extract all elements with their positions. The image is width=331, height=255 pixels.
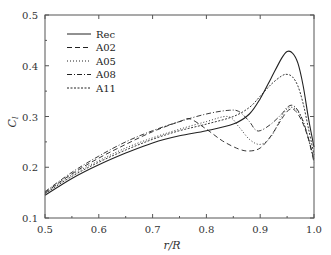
legend: RecA02A05A08A11 bbox=[67, 29, 116, 94]
legend-label-a02: A02 bbox=[95, 42, 116, 53]
legend-label-rec: Rec bbox=[96, 29, 115, 40]
y-axis-label: Cl bbox=[6, 116, 20, 127]
y-tick-label: 0.4 bbox=[22, 61, 38, 72]
x-tick-label: 1.0 bbox=[306, 224, 322, 235]
line-chart: 0.50.60.70.80.91.00.10.20.30.40.5 r/R Cl… bbox=[0, 0, 331, 255]
series-a08-line bbox=[45, 105, 314, 191]
y-tick-label: 0.2 bbox=[22, 162, 38, 173]
x-tick-label: 0.8 bbox=[198, 224, 214, 235]
y-tick-label: 0.1 bbox=[22, 213, 38, 224]
x-tick-label: 0.6 bbox=[91, 224, 107, 235]
legend-label-a05: A05 bbox=[95, 56, 116, 67]
series-a05-line bbox=[45, 107, 314, 192]
legend-label-a08: A08 bbox=[95, 69, 116, 80]
axis-ticks: 0.50.60.70.80.91.00.10.20.30.40.5 bbox=[22, 10, 322, 235]
y-tick-label: 0.3 bbox=[22, 112, 38, 123]
x-tick-label: 0.7 bbox=[145, 224, 161, 235]
series-a11-line bbox=[45, 74, 314, 193]
y-tick-label: 0.5 bbox=[22, 10, 38, 21]
series-rec-line bbox=[45, 51, 314, 195]
axes-frame bbox=[45, 15, 314, 218]
x-tick-label: 0.9 bbox=[252, 224, 268, 235]
x-tick-label: 0.5 bbox=[37, 224, 53, 235]
x-axis-label: r/R bbox=[163, 239, 180, 252]
legend-label-a11: A11 bbox=[95, 83, 116, 94]
series-layer bbox=[45, 51, 314, 195]
